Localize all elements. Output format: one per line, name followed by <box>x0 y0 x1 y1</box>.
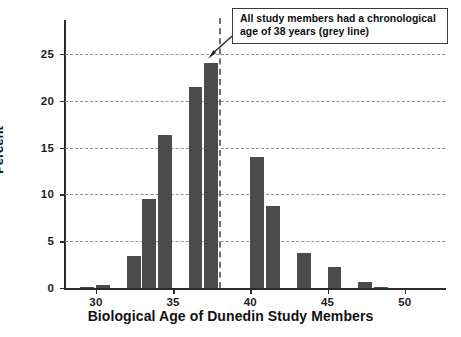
chronological-age-callout: All study members had a chronological ag… <box>232 8 448 44</box>
y-tick-mark <box>60 288 65 289</box>
x-tick-label: 35 <box>167 296 180 308</box>
bar <box>358 282 372 288</box>
bar <box>374 287 388 288</box>
bar <box>297 253 311 288</box>
x-tick-label: 40 <box>244 296 257 308</box>
gridline-20 <box>65 101 445 102</box>
y-tick-mark <box>60 194 65 195</box>
y-tick-mark <box>60 54 65 55</box>
bar <box>328 267 342 288</box>
y-tick-label: 20 <box>41 95 54 107</box>
y-tick-label: 10 <box>41 188 54 200</box>
gridline-15 <box>65 148 445 149</box>
x-axis-line <box>64 288 446 290</box>
y-axis-title: Percent <box>0 126 6 174</box>
x-tick-label: 45 <box>321 296 334 308</box>
bar <box>80 287 94 288</box>
x-tick-mark <box>328 289 329 294</box>
bar <box>250 157 264 288</box>
bar <box>189 87 203 288</box>
gridline-25 <box>65 54 445 55</box>
x-tick-mark <box>405 289 406 294</box>
y-tick-label: 15 <box>41 142 54 154</box>
y-tick-mark <box>60 148 65 149</box>
y-tick-mark <box>60 241 65 242</box>
x-tick-label: 30 <box>89 296 102 308</box>
plot-area <box>65 22 445 288</box>
y-tick-label: 25 <box>41 48 54 60</box>
x-axis-title: Biological Age of Dunedin Study Members <box>0 308 461 324</box>
bar <box>142 199 156 288</box>
bar <box>266 206 280 288</box>
x-tick-mark <box>250 289 251 294</box>
x-tick-label: 50 <box>398 296 411 308</box>
callout-line-2: age of 38 years (grey line) <box>240 26 441 39</box>
bar <box>127 256 141 288</box>
y-tick-mark <box>60 101 65 102</box>
bar <box>204 63 218 288</box>
histogram-figure: 0510152025 3035404550 Percent Biological… <box>0 0 461 337</box>
y-tick-label: 5 <box>47 235 54 247</box>
bar <box>96 285 110 288</box>
x-tick-mark <box>173 289 174 294</box>
y-tick-label: 0 <box>47 282 54 294</box>
callout-line-1: All study members had a chronological <box>240 13 441 26</box>
bar <box>158 135 172 288</box>
x-tick-mark <box>96 289 97 294</box>
